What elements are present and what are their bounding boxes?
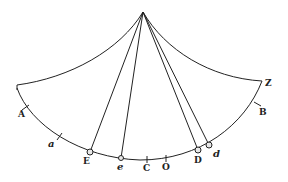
tick-a <box>57 133 62 140</box>
label-O: O <box>162 162 170 172</box>
string-d <box>143 12 209 145</box>
label-B: B <box>259 107 267 117</box>
label-e: e <box>117 161 123 172</box>
string-D <box>143 12 198 150</box>
pendulum-cycloid-diagram: A a E e C O D d B Z <box>0 0 288 182</box>
right-cycloid-arc <box>143 12 262 81</box>
tick-B <box>254 102 261 106</box>
label-A: A <box>17 109 26 119</box>
bob-D <box>195 147 201 153</box>
label-a: a <box>48 138 54 149</box>
bob-e <box>119 156 124 161</box>
bob-d <box>206 142 212 148</box>
left-cycloid-arc <box>17 12 143 85</box>
string-e <box>121 12 143 158</box>
label-d: d <box>213 148 220 159</box>
label-E: E <box>83 156 90 166</box>
string-E <box>90 12 143 152</box>
bob-E <box>87 149 93 155</box>
label-D: D <box>194 155 202 165</box>
label-C: C <box>143 163 150 173</box>
label-Z: Z <box>265 78 272 88</box>
